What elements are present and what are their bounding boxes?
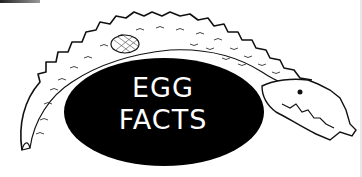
- crocodile-head: [262, 79, 356, 140]
- title-line-egg: EGG: [78, 72, 248, 104]
- crocodile-tail: [22, 143, 30, 150]
- egg-facts-title: EGG FACTS: [78, 72, 248, 136]
- title-line-facts: FACTS: [78, 104, 248, 136]
- egg-facts-illustration: EGG FACTS: [0, 0, 362, 177]
- crocodile-eye: [298, 90, 303, 95]
